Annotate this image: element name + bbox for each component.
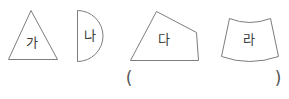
triangle-label: 가 <box>26 35 38 50</box>
shape-semicircle: 나 <box>78 11 104 62</box>
shape-triangle: 가 <box>9 11 58 60</box>
shape-quadrilateral: 다 <box>131 12 199 61</box>
semicircle-label: 나 <box>84 28 96 43</box>
open-paren: ( <box>126 68 133 88</box>
close-paren: ) <box>275 68 282 88</box>
shape-figure: 가 나 다 라 ( ) <box>0 0 289 99</box>
answer-slot: ( ) <box>126 68 282 88</box>
quadrilateral-label: 다 <box>158 32 170 47</box>
curved-trapezoid-label: 라 <box>243 32 255 47</box>
figure-canvas: 가 나 다 라 ( ) <box>0 0 289 99</box>
shape-curved-trapezoid: 라 <box>222 19 279 62</box>
